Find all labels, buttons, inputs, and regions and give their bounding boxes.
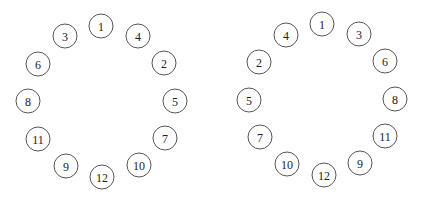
node-label: 11 xyxy=(32,133,44,147)
node-label: 4 xyxy=(283,29,289,43)
node-label: 8 xyxy=(25,95,31,109)
node-9: 9 xyxy=(348,151,372,175)
node-label: 4 xyxy=(135,30,141,44)
node-label: 7 xyxy=(162,132,168,146)
node-11: 11 xyxy=(373,124,397,148)
node-label: 3 xyxy=(356,28,362,42)
right-ring-diagram: 143265871110912 xyxy=(237,12,407,187)
node-label: 7 xyxy=(257,131,263,145)
node-label: 5 xyxy=(172,95,178,109)
node-11: 11 xyxy=(26,127,50,151)
node-label: 8 xyxy=(392,93,398,107)
node-label: 10 xyxy=(281,158,293,172)
node-12: 12 xyxy=(312,163,336,187)
node-label: 10 xyxy=(133,159,145,173)
node-label: 11 xyxy=(379,130,391,144)
diagram-canvas: 134628511791012 143265871110912 xyxy=(0,0,424,198)
node-label: 12 xyxy=(318,169,330,183)
node-12: 12 xyxy=(90,165,114,189)
node-label: 2 xyxy=(256,56,262,70)
node-label: 12 xyxy=(96,171,108,185)
node-8: 8 xyxy=(383,87,407,111)
node-8: 8 xyxy=(16,89,40,113)
node-5: 5 xyxy=(237,88,261,112)
node-10: 10 xyxy=(275,152,299,176)
node-3: 3 xyxy=(53,24,77,48)
node-3: 3 xyxy=(347,22,371,46)
node-label: 1 xyxy=(98,20,104,34)
node-6: 6 xyxy=(26,52,50,76)
node-4: 4 xyxy=(126,24,150,48)
node-label: 2 xyxy=(161,57,167,71)
node-2: 2 xyxy=(152,51,176,75)
node-label: 1 xyxy=(319,18,325,32)
node-7: 7 xyxy=(248,125,272,149)
node-label: 6 xyxy=(382,55,388,69)
node-5: 5 xyxy=(163,89,187,113)
node-7: 7 xyxy=(153,126,177,150)
node-label: 9 xyxy=(357,157,363,171)
node-6: 6 xyxy=(373,49,397,73)
node-4: 4 xyxy=(274,23,298,47)
left-ring-diagram: 134628511791012 xyxy=(16,14,187,189)
node-1: 1 xyxy=(310,12,334,36)
node-label: 3 xyxy=(62,30,68,44)
node-1: 1 xyxy=(89,14,113,38)
node-label: 5 xyxy=(246,94,252,108)
node-10: 10 xyxy=(127,153,151,177)
node-9: 9 xyxy=(54,154,78,178)
node-2: 2 xyxy=(247,50,271,74)
node-label: 9 xyxy=(63,160,69,174)
node-label: 6 xyxy=(35,58,41,72)
